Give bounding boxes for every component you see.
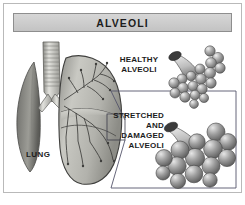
damaged-label-line-2: AND (102, 121, 164, 131)
healthy-alveoli-label: HEALTHY ALVEOLI (114, 55, 164, 75)
damaged-label-line-4: ALVEOLI (102, 141, 164, 151)
lung-label: LUNG (26, 150, 50, 159)
figure-stage: HEALTHY ALVEOLI STRETCHED AND DAMAGED AL… (4, 36, 241, 192)
healthy-alveoli-illustration (167, 46, 225, 109)
damaged-alveoli-label: STRETCHED AND DAMAGED ALVEOLI (102, 111, 164, 151)
healthy-label-line-2: ALVEOLI (114, 65, 164, 75)
figure-title-bar: ALVEOLI (13, 13, 232, 32)
healthy-label-line-1: HEALTHY (114, 55, 164, 65)
damaged-alveoli-illustration (156, 120, 237, 188)
damaged-sacs (156, 123, 237, 189)
damaged-label-line-1: STRETCHED (102, 111, 164, 121)
alveoli-figure: ALVEOLI (0, 0, 245, 205)
damaged-label-line-3: DAMAGED (102, 131, 164, 141)
figure-title: ALVEOLI (96, 17, 148, 29)
